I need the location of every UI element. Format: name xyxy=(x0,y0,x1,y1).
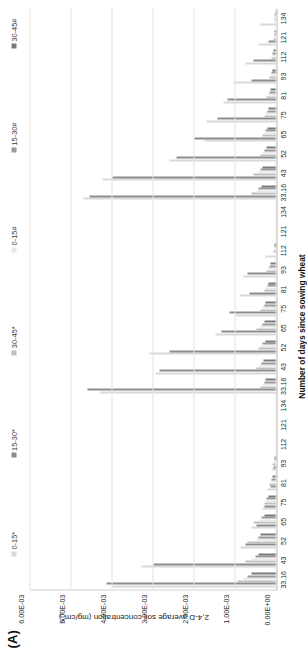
bar[interactable] xyxy=(260,325,276,327)
bar[interactable] xyxy=(260,386,276,388)
bar[interactable] xyxy=(87,388,276,390)
bar[interactable] xyxy=(245,560,276,562)
bar[interactable] xyxy=(265,112,276,114)
bar[interactable] xyxy=(251,572,276,574)
bar[interactable] xyxy=(261,185,276,187)
bar[interactable] xyxy=(221,330,276,332)
bar[interactable] xyxy=(251,558,276,560)
legend-item-0-15-[interactable]: 0-15* xyxy=(10,531,17,556)
bar[interactable] xyxy=(141,565,276,567)
bar[interactable] xyxy=(262,323,276,325)
bar[interactable] xyxy=(266,96,276,98)
bar[interactable] xyxy=(265,301,276,303)
bar[interactable] xyxy=(149,352,276,354)
bar[interactable] xyxy=(260,345,276,347)
bar[interactable] xyxy=(251,527,276,529)
bar[interactable] xyxy=(251,192,276,194)
bar[interactable] xyxy=(256,367,277,369)
bar[interactable] xyxy=(264,320,276,322)
bar[interactable] xyxy=(264,514,276,516)
bar[interactable] xyxy=(106,582,276,584)
bar[interactable] xyxy=(235,314,276,316)
bar[interactable] xyxy=(247,272,276,274)
bar[interactable] xyxy=(247,575,276,577)
bar[interactable] xyxy=(239,294,276,296)
bar[interactable] xyxy=(260,309,276,311)
bar[interactable] xyxy=(256,328,276,330)
bar[interactable] xyxy=(229,311,276,313)
bar[interactable] xyxy=(253,59,276,61)
bar[interactable] xyxy=(258,553,276,555)
bar[interactable] xyxy=(264,381,276,383)
bar[interactable] xyxy=(237,580,276,582)
bar[interactable] xyxy=(243,275,276,277)
bar[interactable] xyxy=(256,524,277,526)
bar[interactable] xyxy=(262,166,276,168)
bar[interactable] xyxy=(176,156,276,158)
bar[interactable] xyxy=(153,563,276,565)
bar[interactable] xyxy=(266,270,276,272)
bar[interactable] xyxy=(262,306,276,308)
bar[interactable] xyxy=(253,522,276,524)
bar[interactable] xyxy=(264,115,276,117)
bar[interactable] xyxy=(264,502,276,504)
bar[interactable] xyxy=(256,538,277,540)
bar[interactable] xyxy=(264,149,276,151)
bar[interactable] xyxy=(258,171,276,173)
bar[interactable] xyxy=(260,154,276,156)
bar[interactable] xyxy=(259,519,276,521)
bar[interactable] xyxy=(258,347,276,349)
bar[interactable] xyxy=(262,342,276,344)
bar[interactable] xyxy=(264,289,276,291)
bar[interactable] xyxy=(206,120,276,122)
bar[interactable] xyxy=(262,151,276,153)
bar[interactable] xyxy=(247,541,276,543)
bar[interactable] xyxy=(265,378,276,380)
bar[interactable] xyxy=(169,159,276,161)
bar[interactable] xyxy=(155,372,276,374)
bar[interactable] xyxy=(251,79,276,81)
bar[interactable] xyxy=(265,500,276,502)
bar[interactable] xyxy=(262,383,276,385)
bar[interactable] xyxy=(261,517,276,519)
bar[interactable] xyxy=(258,187,276,189)
bar[interactable] xyxy=(159,369,276,371)
legend-item-15-30-[interactable]: 15-30* xyxy=(10,429,17,458)
bar[interactable] xyxy=(261,362,276,364)
bar[interactable] xyxy=(263,359,276,361)
bar[interactable] xyxy=(89,195,276,197)
bar[interactable] xyxy=(102,178,276,180)
bar[interactable] xyxy=(265,129,276,131)
bar[interactable] xyxy=(258,43,276,45)
bar[interactable] xyxy=(217,117,276,119)
bar[interactable] xyxy=(265,340,276,342)
bar[interactable] xyxy=(260,23,276,25)
bar[interactable] xyxy=(264,132,276,134)
bar[interactable] xyxy=(233,81,276,83)
bar[interactable] xyxy=(259,364,276,366)
bar[interactable] xyxy=(255,555,276,557)
bar[interactable] xyxy=(265,255,276,257)
legend-item-0-15-[interactable]: 0-15# xyxy=(10,226,17,252)
bar[interactable] xyxy=(258,536,276,538)
bar[interactable] xyxy=(245,62,276,64)
bar[interactable] xyxy=(260,168,276,170)
bar[interactable] xyxy=(266,146,276,148)
bar[interactable] xyxy=(253,173,276,175)
bar[interactable] xyxy=(204,139,276,141)
legend-item-15-30-[interactable]: 15-30# xyxy=(10,122,17,152)
bar[interactable] xyxy=(243,577,276,579)
bar[interactable] xyxy=(256,190,277,192)
bar[interactable] xyxy=(169,350,276,352)
bar[interactable] xyxy=(100,391,276,393)
bar[interactable] xyxy=(223,101,276,103)
bar[interactable] xyxy=(245,543,276,545)
bar[interactable] xyxy=(240,546,276,548)
bar[interactable] xyxy=(265,287,276,289)
bar[interactable] xyxy=(264,304,276,306)
bar[interactable] xyxy=(262,507,276,509)
legend-item-30-45-[interactable]: 30-45# xyxy=(10,18,17,48)
legend-item-30-45-[interactable]: 30-45* xyxy=(10,326,17,355)
bar[interactable] xyxy=(262,134,276,136)
bar[interactable] xyxy=(264,505,276,507)
